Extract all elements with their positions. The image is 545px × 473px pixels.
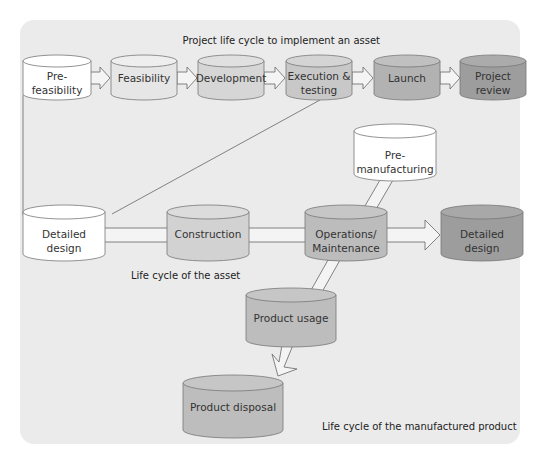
caption-product-life-cycle: Life cycle of the manufactured product — [322, 421, 517, 432]
node-label: Development — [196, 72, 267, 84]
node-construction[interactable]: Construction — [167, 205, 249, 261]
node-label: design — [465, 242, 500, 254]
life-cycle-diagram: .edge { stroke:#666; stroke-width:0.8; f… — [0, 0, 545, 473]
node-label: Operations/ — [315, 228, 377, 240]
node-label: Pre- — [47, 70, 68, 82]
arrow-feasibility-development — [177, 67, 197, 89]
node-label: Product disposal — [190, 401, 276, 413]
node-launch[interactable]: Launch — [374, 55, 440, 100]
arrow-operations-detailed-design — [385, 220, 440, 250]
band-detailed-design-construction — [104, 228, 168, 242]
band-construction-operations — [248, 228, 306, 242]
node-label: Product usage — [254, 312, 329, 324]
node-execution-testing[interactable]: Execution & testing — [286, 55, 352, 100]
caption-asset-life-cycle: Life cycle of the asset — [131, 270, 240, 281]
node-pre-manufacturing[interactable]: Pre- manufacturing — [354, 124, 436, 181]
node-label: Construction — [175, 228, 242, 240]
connector-detailed-design-to-execution — [112, 100, 320, 214]
node-detailed-design-left[interactable]: Detailed design — [23, 205, 105, 261]
node-label: manufacturing — [356, 163, 433, 175]
node-label: Feasibility — [118, 72, 171, 84]
node-label: design — [47, 242, 82, 254]
caption-project-life-cycle: Project life cycle to implement an asset — [183, 35, 381, 46]
node-label: testing — [301, 84, 337, 96]
node-label: Launch — [388, 72, 426, 84]
node-label: Project — [475, 70, 511, 82]
node-feasibility[interactable]: Feasibility — [111, 55, 177, 100]
node-label: review — [476, 84, 511, 96]
node-pre-feasibility[interactable]: Pre- feasibility — [23, 55, 91, 100]
node-label: Detailed — [42, 228, 86, 240]
node-label: Pre- — [385, 149, 406, 161]
arrow-launch-project-review — [440, 67, 460, 89]
arrow-product-usage-disposal — [272, 345, 297, 376]
arrow-prefeasibility-feasibility — [90, 67, 110, 89]
arrow-execution-launch — [352, 67, 373, 89]
node-detailed-design-right[interactable]: Detailed design — [441, 205, 523, 261]
node-label: Execution & — [287, 70, 350, 82]
node-product-usage[interactable]: Product usage — [246, 288, 336, 347]
arrow-development-execution — [264, 67, 285, 89]
node-project-review[interactable]: Project review — [460, 55, 526, 100]
node-label: feasibility — [32, 84, 83, 96]
node-operations-maintenance[interactable]: Operations/ Maintenance — [305, 205, 387, 261]
node-product-disposal[interactable]: Product disposal — [183, 375, 283, 438]
node-label: Detailed — [460, 228, 504, 240]
band-operations-product-usage — [310, 260, 340, 292]
node-development[interactable]: Development — [196, 55, 267, 100]
node-label: Maintenance — [312, 242, 380, 254]
